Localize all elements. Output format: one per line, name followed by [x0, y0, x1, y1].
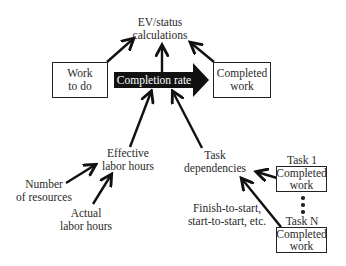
deps-to-rate-arrow: [173, 92, 202, 148]
actual-to-labor-arrow: [93, 175, 111, 204]
task-n-title: Task N: [286, 215, 319, 228]
actual-labor-hours-node: Actual labor hours: [60, 207, 112, 232]
ev-status-node: EV/status calculations: [133, 16, 188, 41]
task-dependencies-node: Task dependencies: [184, 149, 246, 174]
labor-to-rate-arrow: [130, 92, 151, 147]
completed-to-ev-arrow: [191, 43, 214, 62]
ellipsis-dots: [301, 196, 305, 214]
task-n-completed-work-box: Completed work: [276, 227, 327, 253]
dependency-types-label: Finish-to-start, start-to-start, etc.: [188, 202, 266, 227]
task-1-title: Task 1: [287, 154, 317, 167]
effective-labor-hours-node: Effective labor hours: [102, 147, 154, 172]
completed-work-box: Completed work: [213, 62, 271, 98]
task-1-completed-work-box: Completed work: [276, 166, 327, 192]
number-of-resources-node: Number of resources: [16, 178, 72, 203]
work-to-ev-arrow: [107, 39, 133, 62]
completion-rate-label: Completion rate: [114, 72, 194, 88]
task1-to-deps-arrow: [257, 172, 277, 178]
work-to-do-box: Work to do: [52, 62, 108, 98]
